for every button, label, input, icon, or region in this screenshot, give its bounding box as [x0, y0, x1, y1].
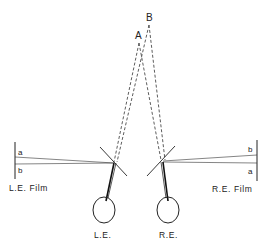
- point-b-label: B: [146, 12, 153, 23]
- left-film-mark-b: b: [18, 166, 23, 175]
- right-film-mark-b: b: [248, 145, 253, 154]
- right-film-label: R.E. Film: [212, 184, 252, 194]
- left-eye-label: L.E.: [94, 230, 112, 240]
- right-ray-a: [163, 162, 257, 163]
- right-film-mark-a: a: [248, 167, 253, 176]
- point-a-label: A: [135, 30, 142, 41]
- left-mirror: [100, 147, 127, 176]
- right-eye-label: R.E.: [159, 230, 178, 240]
- right-mirror: [147, 146, 175, 176]
- left-eye: [93, 197, 115, 223]
- left-film-mark-a: a: [18, 148, 23, 157]
- left-ray-a: [15, 157, 114, 163]
- right-eye-rays: [161, 162, 168, 201]
- left-ray-b: [15, 163, 114, 164]
- left-film-label: L.E. Film: [9, 183, 48, 193]
- right-ray-b: [163, 155, 257, 161]
- left-eye-rays: [106, 163, 116, 201]
- stereoscope-diagram: B A a b L.E. Film b a R.E. Film L.E. R.E…: [0, 0, 272, 250]
